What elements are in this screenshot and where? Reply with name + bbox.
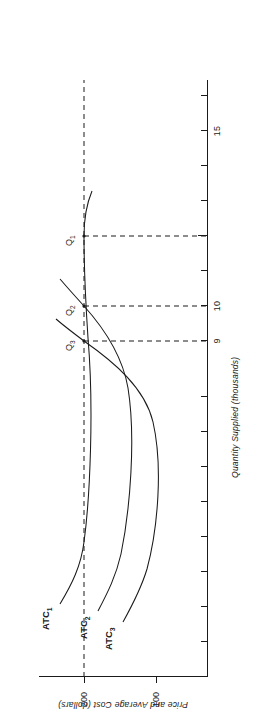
figure-canvas: 9 10 15 100 200 Quantity Supplied (thous… bbox=[0, 0, 275, 716]
y-axis-title: Price and Average Cost (dollars) bbox=[48, 700, 198, 710]
x-tick-15 bbox=[201, 130, 208, 131]
q3-label: Q3 bbox=[64, 340, 78, 351]
x-tick-1 bbox=[201, 641, 208, 642]
x-tick-label-15: 15 bbox=[212, 116, 222, 146]
x-tick-2 bbox=[201, 606, 208, 607]
q1-label-sub: 1 bbox=[68, 235, 75, 239]
atc3-label-base: ATC bbox=[103, 631, 114, 650]
atc2-curve bbox=[60, 279, 132, 611]
q2-label-sub: 2 bbox=[68, 305, 75, 309]
x-tick-11 bbox=[201, 270, 208, 271]
atc3-curve bbox=[56, 319, 158, 622]
x-tick-label-9: 9 bbox=[212, 326, 222, 356]
x-tick-label-10: 10 bbox=[212, 291, 222, 321]
q1-label-base: Q bbox=[64, 239, 74, 246]
atc1-label-sub: 1 bbox=[45, 607, 52, 611]
x-tick-7 bbox=[201, 431, 208, 432]
chart-plot-area: 9 10 15 100 200 Quantity Supplied (thous… bbox=[22, 28, 254, 688]
atc3-label: ATC3 bbox=[104, 627, 118, 650]
x-tick-8 bbox=[201, 396, 208, 397]
x-tick-4 bbox=[201, 536, 208, 537]
q3-label-sub: 3 bbox=[68, 340, 75, 344]
y-tick-100 bbox=[156, 676, 157, 683]
atc1-curve bbox=[60, 191, 92, 604]
atc1-label: ATC1 bbox=[41, 607, 55, 630]
x-tick-12 bbox=[198, 235, 208, 236]
q1-point bbox=[82, 234, 85, 237]
q2-label: Q2 bbox=[64, 305, 78, 316]
x-tick-6 bbox=[201, 466, 208, 467]
x-axis-title: Quantity Supplied (thousands) bbox=[230, 357, 240, 478]
x-tick-9 bbox=[201, 340, 208, 341]
atc1-label-base: ATC bbox=[40, 611, 51, 630]
rotated-chart-wrapper: 9 10 15 100 200 Quantity Supplied (thous… bbox=[22, 28, 254, 688]
atc2-label-sub: 2 bbox=[83, 616, 90, 620]
atc2-label: ATC2 bbox=[79, 616, 93, 639]
x-tick-10 bbox=[201, 305, 208, 306]
x-tick-3 bbox=[201, 571, 208, 572]
atc2-label-base: ATC bbox=[78, 620, 89, 639]
x-tick-5 bbox=[201, 501, 208, 502]
x-tick-16 bbox=[201, 95, 208, 96]
q1-label: Q1 bbox=[64, 235, 78, 246]
q3-label-base: Q bbox=[64, 344, 74, 351]
y-tick-200 bbox=[84, 676, 85, 683]
x-tick-14 bbox=[201, 165, 208, 166]
q2-label-base: Q bbox=[64, 309, 74, 316]
atc3-label-sub: 3 bbox=[108, 627, 115, 631]
x-tick-13 bbox=[201, 200, 208, 201]
